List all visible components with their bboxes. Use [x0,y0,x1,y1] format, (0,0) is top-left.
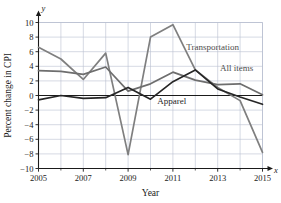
series-label-apparel: Apparel [157,96,186,106]
y-tick-label: −2 [24,105,33,115]
series-label-transportation: Transportation [186,42,239,52]
x-tick-label: 2015 [254,173,271,183]
x-tick-label: 2013 [209,173,226,183]
x-axis-variable-letter: x [273,165,278,175]
x-tick-label: 2007 [75,173,92,183]
series-label-all-items: All items [220,63,254,73]
x-tick-label: 2011 [165,173,182,183]
x-tick-label: 2009 [120,173,137,183]
y-tick-label: 0 [29,91,33,101]
x-axis-arrowhead [268,166,274,171]
y-axis-title: Percent change in CPI [3,53,13,138]
y-tick-label: 2 [29,76,33,86]
cpi-line-chart: −10−8−6−4−202468102005200720092011201320… [0,0,281,203]
y-axis-arrowhead [36,11,41,17]
y-tick-label: 8 [29,32,33,42]
y-tick-label: −6 [24,134,33,144]
x-axis-title: Year [142,188,160,198]
chart-canvas: −10−8−6−4−202468102005200720092011201320… [0,0,281,203]
y-tick-label: 10 [25,18,34,28]
y-tick-label: −8 [24,149,33,159]
y-tick-label: 4 [29,61,34,71]
x-tick-label: 2005 [30,173,47,183]
y-tick-label: −4 [24,120,34,130]
y-tick-label: 6 [29,47,33,57]
y-axis-variable-letter: y [41,3,46,13]
